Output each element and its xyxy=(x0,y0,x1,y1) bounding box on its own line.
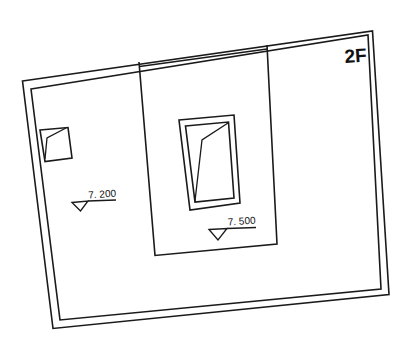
center-window-swing-line xyxy=(195,123,228,201)
center-window-frame-inner xyxy=(186,122,235,202)
elevation-marker-center: 7. 500 xyxy=(209,215,256,240)
center-window xyxy=(179,115,240,210)
elevation-value-left: 7. 200 xyxy=(88,188,117,201)
elevation-triangle-icon xyxy=(72,201,88,211)
floor-label: 2F xyxy=(344,44,368,66)
inner-wall-outline xyxy=(31,35,381,320)
elevation-marker-left: 7. 200 xyxy=(72,188,117,211)
elevation-value-center: 7. 500 xyxy=(227,215,256,228)
left-window-swing-line xyxy=(45,128,66,159)
left-window xyxy=(40,128,72,162)
center-room-outline xyxy=(139,45,277,256)
floor-plan-2f: 7. 200 7. 500 2F xyxy=(0,0,419,359)
elevation-underline xyxy=(227,228,256,229)
outer-wall-outline xyxy=(23,31,390,329)
elevation-triangle-icon xyxy=(209,229,227,241)
